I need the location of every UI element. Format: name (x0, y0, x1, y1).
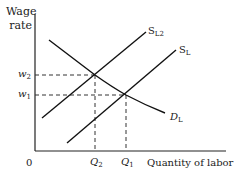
y-axis-label-line2: rate (6, 20, 32, 31)
origin-label: 0 (26, 158, 32, 168)
tick-q2: Q2 (90, 157, 103, 169)
sl2-label: SL2 (148, 26, 164, 38)
chart-canvas (0, 0, 240, 180)
y-axis-label: Wage rate (6, 6, 32, 31)
tick-w1: w1 (18, 89, 31, 101)
tick-w2: w2 (18, 69, 31, 81)
tick-q1: Q1 (121, 157, 134, 169)
supply-curve-sl (67, 50, 176, 143)
demand-curve-dl (49, 40, 165, 113)
x-axis-label: Quantity of labor (147, 158, 233, 168)
sl-label: SL (179, 45, 191, 57)
dl-label: DL (170, 112, 183, 124)
y-axis-label-line1: Wage (6, 6, 32, 17)
